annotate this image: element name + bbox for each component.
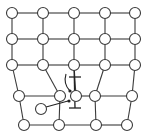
lattice-atom <box>38 60 49 71</box>
arrowhead-icon <box>68 89 71 92</box>
lattice-atom <box>38 8 49 19</box>
lattice-atom <box>91 120 102 131</box>
lattice-atom <box>38 34 49 45</box>
lattice-atom <box>130 8 141 19</box>
lattice-atom <box>7 34 18 45</box>
lattice-atom <box>100 60 111 71</box>
interstitial-atom <box>36 104 47 115</box>
lattice-atom <box>122 120 133 131</box>
lattice-atom <box>71 91 82 102</box>
lattice-atom <box>69 60 80 71</box>
lattice-diagram <box>0 0 145 138</box>
straight-arrow <box>46 101 68 107</box>
lattice-atom <box>54 120 65 131</box>
lattice-atom <box>14 91 25 102</box>
lattice-atom <box>7 8 18 19</box>
arrowhead-icon <box>67 99 70 102</box>
lattice-atom <box>7 60 18 71</box>
lattice-atom <box>69 34 80 45</box>
lattice-atom <box>130 34 141 45</box>
lattice-atom <box>19 120 30 131</box>
lattice-atom <box>127 91 138 102</box>
lattice-atom <box>69 8 80 19</box>
lattice-atom <box>130 60 141 71</box>
lattice-atom <box>55 91 66 102</box>
lattice-atom <box>100 8 111 19</box>
lattice-atom <box>100 34 111 45</box>
lattice-atom <box>90 91 101 102</box>
